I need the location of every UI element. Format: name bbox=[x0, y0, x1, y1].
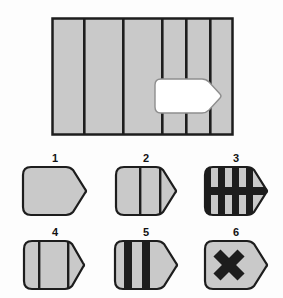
option-5[interactable]: 5 bbox=[99, 224, 193, 297]
option-3[interactable]: 3 bbox=[189, 150, 283, 223]
panel-stripe-1 bbox=[83, 19, 86, 135]
option-4-tip-divider bbox=[67, 239, 69, 291]
option-1-outline bbox=[23, 167, 86, 215]
panel-stripe-2 bbox=[122, 19, 125, 135]
option-4[interactable]: 4 bbox=[8, 224, 102, 297]
panel-stripe-4 bbox=[185, 19, 188, 135]
option-1-label: 1 bbox=[8, 152, 102, 164]
option-2-shape bbox=[112, 165, 180, 217]
panel-stripe-3 bbox=[161, 19, 164, 135]
option-1-shape bbox=[21, 165, 89, 217]
option-5-shape bbox=[112, 239, 180, 291]
puzzle-canvas: 1 2 3 bbox=[0, 0, 283, 298]
striped-panel bbox=[51, 17, 234, 136]
option-2-tip-divider bbox=[159, 165, 161, 217]
option-3-hband bbox=[202, 187, 270, 195]
option-4-label: 4 bbox=[8, 226, 102, 238]
option-5-label: 5 bbox=[99, 226, 193, 238]
option-6[interactable]: 6 bbox=[189, 224, 283, 297]
option-4-shape bbox=[21, 239, 89, 291]
option-3-shape bbox=[202, 165, 270, 217]
option-5-vbar-1 bbox=[124, 239, 132, 291]
option-2[interactable]: 2 bbox=[99, 150, 193, 223]
option-2-line-1 bbox=[139, 165, 141, 217]
option-6-shape bbox=[202, 239, 270, 291]
option-2-label: 2 bbox=[99, 152, 193, 164]
option-6-label: 6 bbox=[189, 226, 283, 238]
option-1[interactable]: 1 bbox=[8, 150, 102, 223]
option-4-outline bbox=[24, 241, 84, 289]
options-grid: 1 2 3 bbox=[0, 150, 283, 298]
option-4-line-1 bbox=[38, 239, 40, 291]
panel-stripe-5 bbox=[209, 19, 212, 135]
striped-panel-graphic bbox=[51, 17, 234, 136]
pentagon-cutout bbox=[155, 79, 221, 113]
panel-body bbox=[53, 19, 233, 135]
option-2-outline bbox=[116, 167, 176, 215]
option-3-label: 3 bbox=[189, 152, 283, 164]
option-5-vbar-2 bbox=[142, 239, 150, 291]
